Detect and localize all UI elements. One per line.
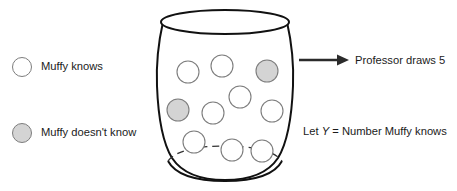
ball-knows (211, 55, 233, 77)
definition-equals: = (332, 125, 339, 137)
urn-balls-group (0, 0, 457, 191)
random-variable-definition-label: Let Y = Number Muffy knows (303, 126, 447, 137)
ball-knows (251, 140, 273, 162)
definition-variable: Y (322, 125, 329, 137)
ball-doesnt-know (256, 60, 278, 82)
ball-doesnt-know (167, 99, 189, 121)
right-arrow-icon (298, 52, 350, 68)
professor-draws-label: Professor draws 5 (355, 55, 445, 66)
definition-description: Number Muffy knows (342, 125, 447, 137)
ball-knows (202, 102, 224, 124)
ball-knows (177, 61, 199, 83)
ball-knows (183, 131, 205, 153)
definition-prefix: Let (303, 125, 319, 137)
ball-knows (221, 139, 243, 161)
ball-knows (229, 86, 251, 108)
diagram-canvas: Muffy knows Muffy doesn't know Professor… (0, 0, 457, 191)
ball-knows (261, 100, 283, 122)
